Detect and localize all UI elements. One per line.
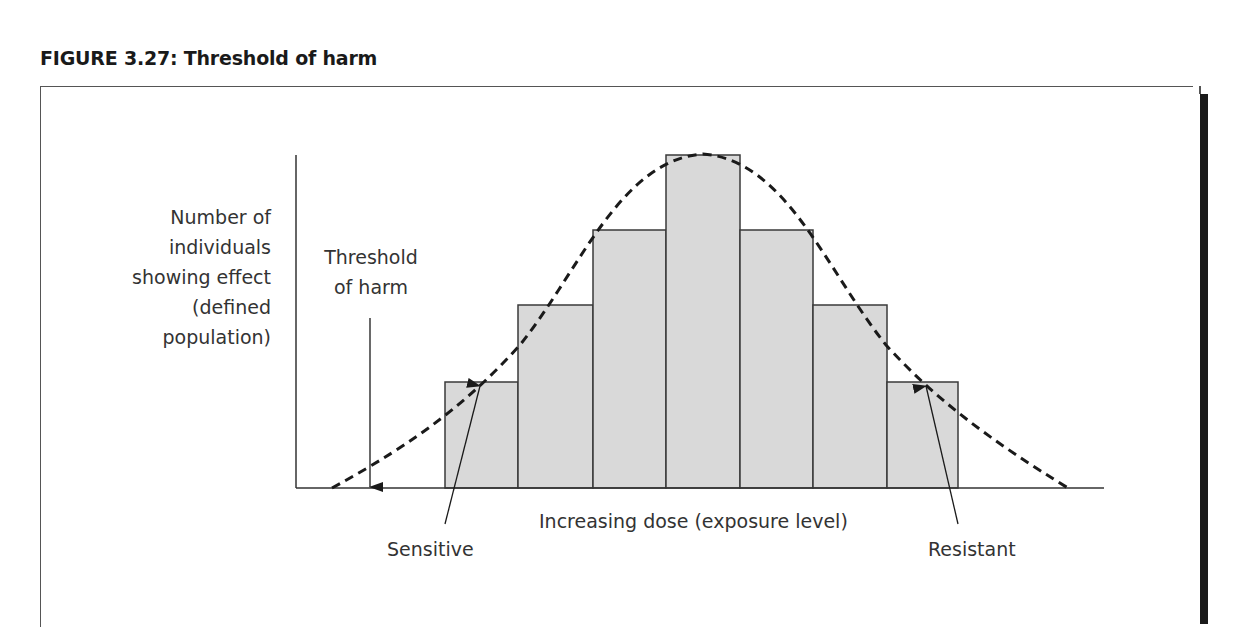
y-axis-label-line: population) xyxy=(132,322,271,352)
y-axis-label-line: (defined xyxy=(132,292,271,322)
y-axis-label-line: Number of xyxy=(132,202,271,232)
y-axis-label-line: individuals xyxy=(132,232,271,262)
bar-7 xyxy=(887,382,958,488)
bar-4 xyxy=(666,155,740,488)
resistant-label: Resistant xyxy=(928,534,1016,564)
bar-2 xyxy=(518,305,593,488)
histogram-bars xyxy=(445,155,958,488)
sensitive-label: Sensitive xyxy=(387,534,474,564)
y-axis-label-line: showing effect xyxy=(132,262,271,292)
threshold-label: Threshold of harm xyxy=(318,242,424,302)
x-axis-label: Increasing dose (exposure level) xyxy=(539,506,848,536)
threshold-label-line: Threshold xyxy=(318,242,424,272)
threshold-label-line: of harm xyxy=(318,272,424,302)
bar-3 xyxy=(593,230,666,488)
y-axis-label: Number of individuals showing effect (de… xyxy=(132,202,271,352)
bar-1 xyxy=(445,382,518,488)
bar-5 xyxy=(740,230,813,488)
